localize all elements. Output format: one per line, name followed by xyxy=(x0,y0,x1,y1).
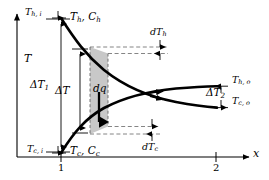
cold-curve-label: Tc, Cc xyxy=(70,145,100,157)
dq-label: dq xyxy=(93,83,106,94)
y-axis-label: T xyxy=(24,53,31,64)
x-tick-label-1: 1 xyxy=(58,163,64,173)
cold-inlet-label: Tc, i xyxy=(27,144,43,155)
delta-t2-label: ΔT2 xyxy=(206,87,225,99)
d-tc-label: dTc xyxy=(142,142,158,153)
hot-outlet-label: Th, o xyxy=(232,75,251,86)
cold-fluid-curve xyxy=(61,86,217,153)
hot-inlet-label: Th, i xyxy=(25,7,42,18)
delta-t1-label: ΔT1 xyxy=(30,79,49,91)
hot-inlet-marker xyxy=(52,11,66,18)
delta-t-label: ΔT xyxy=(55,85,70,96)
x-axis-label: x xyxy=(253,148,259,159)
hot-curve-label: Th, Ch xyxy=(70,11,101,23)
heat-exchanger-diagram: T x 1 2 Th, i Tc, i Th, o Tc, o Th, Ch T… xyxy=(0,0,269,180)
d-th-label: dTh xyxy=(150,27,167,38)
x-tick-label-2: 2 xyxy=(213,163,219,173)
cold-outlet-label: Tc, o xyxy=(232,96,250,107)
